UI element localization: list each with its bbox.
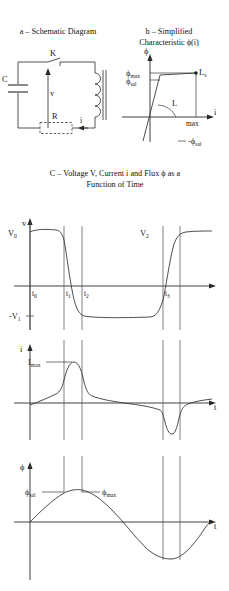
voltage-label: v [50, 89, 55, 98]
flux-time-axis-label: t [214, 522, 217, 531]
capacitor-label: C [2, 75, 8, 84]
imax-label: Imax [28, 358, 41, 368]
coil-arc-4 [95, 106, 101, 117]
coil-arc-1 [95, 73, 101, 84]
saturation-curve [143, 73, 196, 141]
i-axis-label: i [214, 108, 217, 117]
voltage-waveform [30, 229, 212, 317]
operating-point-label: Ls [199, 68, 206, 78]
i-max-tick-label: max [186, 119, 199, 128]
voltage-arrow-head [45, 68, 50, 75]
current-axis-label: i [20, 345, 23, 354]
switch-blade [48, 58, 60, 62]
resistor-label: R [52, 112, 58, 121]
current-axis-arrow [27, 344, 32, 351]
current-label: i [80, 116, 83, 125]
phi-axis-label: ϕ [144, 47, 149, 56]
tick-label-t3: t3 [165, 289, 170, 299]
tick-label-t2: t2 [84, 289, 89, 299]
current-waveform [30, 362, 212, 434]
i-axis-arrow [207, 114, 214, 119]
flux-axis-arrow [27, 462, 32, 469]
slope-label: L [172, 99, 177, 108]
resistor-box [40, 123, 72, 134]
panel-c-voltage-plot: v V0 V2 -V1 t0 t1 t2 t3 [8, 218, 216, 330]
current-time-axis-label: t [214, 403, 217, 412]
current-arrow-head [78, 125, 84, 130]
schematic-circuit: C K v R i [2, 49, 106, 134]
figure-page: a – Schematic Diagram b – Simplified Cha… [0, 0, 229, 591]
coil-arc-3 [95, 95, 101, 106]
panel-b-flux-characteristic: ϕ ϕmax ϕsal Ls L max -ϕsal i [122, 47, 217, 147]
flux-phi-sal-label: ϕsal [25, 488, 36, 498]
operating-point-marker [194, 71, 197, 74]
panel-c-flux-plot: ϕ ϕsal ϕmax t [14, 456, 217, 580]
voltage-time-axis-arrow [209, 283, 216, 288]
voltage-axis-label: v [22, 219, 27, 228]
flux-waveform [30, 490, 212, 559]
panel-c-current-plot: i Imax t [14, 340, 217, 440]
v2-label: V2 [140, 229, 149, 239]
v0-label: V0 [8, 229, 17, 239]
tick-label-t1: t1 [66, 289, 71, 299]
tick-label-t0: t0 [32, 289, 37, 299]
coil-arc-2 [95, 84, 101, 95]
neg-v1-label: -V1 [9, 312, 21, 322]
neg-phi-sat-label: -ϕsal [188, 137, 202, 147]
flux-phi-max-label: ϕmax [102, 488, 116, 498]
panel-a-schematic: C K v R i [0, 0, 229, 591]
switch-label: K [50, 49, 56, 58]
flux-axis-label: ϕ [20, 463, 25, 472]
